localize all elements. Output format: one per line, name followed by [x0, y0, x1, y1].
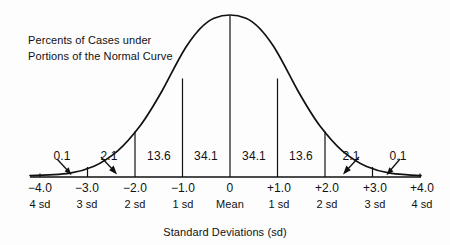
normal-curve-figure: Percents of Cases under Portions of the …: [0, 0, 450, 245]
figure-title-line-1: Percents of Cases under: [28, 33, 173, 49]
x-tick-label-minus3: −3.0: [75, 181, 99, 195]
x-tick-label-zero: 0: [227, 181, 234, 195]
figure-title: Percents of Cases under Portions of the …: [28, 33, 173, 64]
band-percent-label-mean-plus1: 34.1: [242, 149, 266, 163]
sd-label-plus3: 3 sd: [364, 198, 385, 210]
band-percent-label-plus1-plus2: 13.6: [289, 149, 313, 163]
band-percent-label-minus1-mean: 34.1: [194, 149, 218, 163]
band-percent-label-minus2-minus1: 13.6: [147, 149, 171, 163]
x-tick-label-plus3: +3.0: [363, 181, 387, 195]
x-tick-label-minus2: −2.0: [123, 181, 147, 195]
x-tick-label-plus2: +2.0: [315, 181, 339, 195]
sd-label-plus1: 1 sd: [268, 198, 289, 210]
sd-label-plus4: 4 sd: [411, 198, 432, 210]
sd-label-minus1: 1 sd: [172, 198, 193, 210]
x-axis-caption: Standard Deviations (sd): [0, 226, 450, 238]
sd-label-minus2: 2 sd: [124, 198, 145, 210]
x-tick-label-plus4: +4.0: [410, 181, 434, 195]
figure-title-line-2: Portions of the Normal Curve: [28, 49, 173, 65]
sd-label-mean: Mean: [216, 198, 244, 210]
band-percent-label-plus3-plus4: 0.1: [390, 149, 407, 163]
x-tick-label-minus1: −1.0: [171, 181, 195, 195]
sd-label-minus4: 4 sd: [29, 198, 50, 210]
band-percent-label-plus2-plus3: 2.1: [343, 149, 360, 163]
x-tick-label-plus1: +1.0: [267, 181, 291, 195]
band-percent-label-minus3-minus2: 2.1: [101, 149, 118, 163]
x-tick-label-minus4: −4.0: [28, 181, 52, 195]
sd-label-minus3: 3 sd: [76, 198, 97, 210]
band-percent-label-minus4-minus3: 0.1: [54, 149, 71, 163]
sd-label-plus2: 2 sd: [316, 198, 337, 210]
